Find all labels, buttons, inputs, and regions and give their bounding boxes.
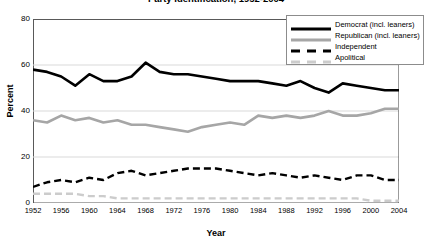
legend-item-democrat-incl-leaners[interactable]: Democrat (incl. leaners) <box>287 19 423 30</box>
x-tick-1984: 1984 <box>243 206 273 215</box>
x-tick-1968: 1968 <box>131 206 161 215</box>
party-identification-chart: Party Identification, 1952-2004 Percent … <box>0 0 432 242</box>
x-tick-1980: 1980 <box>215 206 245 215</box>
legend-item-label: Independent <box>335 42 377 51</box>
legend-swatch-icon <box>290 20 332 30</box>
x-tick-1952: 1952 <box>18 206 48 215</box>
legend-item-republican-incl-leaners[interactable]: Republican (incl. leaners) <box>287 30 423 41</box>
x-tick-1976: 1976 <box>187 206 217 215</box>
x-tick-2004: 2004 <box>384 206 414 215</box>
x-axis-title: Year <box>33 228 399 238</box>
x-tick-1992: 1992 <box>300 206 330 215</box>
legend-item-apolitical[interactable]: Apolitical <box>287 52 423 63</box>
legend-item-independent[interactable]: Independent <box>287 41 423 52</box>
y-tick-20: 20 <box>4 153 30 161</box>
x-axis-tick-labels: 1952195619601964196819721976198019841988… <box>33 206 399 218</box>
y-tick-80: 80 <box>4 15 30 23</box>
x-tick-1956: 1956 <box>46 206 76 215</box>
series-line-republican-incl-leaners <box>33 109 399 132</box>
x-tick-2000: 2000 <box>356 206 386 215</box>
series-line-apolitical <box>33 194 399 201</box>
legend-item-label: Apolitical <box>335 53 365 62</box>
legend-swatch-icon <box>290 53 332 63</box>
legend-swatch-icon <box>290 42 332 52</box>
y-tick-60: 60 <box>4 61 30 69</box>
x-tick-1988: 1988 <box>271 206 301 215</box>
chart-title: Party Identification, 1952-2004 <box>0 0 432 7</box>
chart-legend: Democrat (incl. leaners)Republican (incl… <box>286 15 424 65</box>
series-line-democrat-incl-leaners <box>33 63 399 93</box>
x-tick-1964: 1964 <box>102 206 132 215</box>
x-tick-1960: 1960 <box>74 206 104 215</box>
series-line-independent <box>33 169 399 187</box>
x-tick-1972: 1972 <box>159 206 189 215</box>
x-tick-1996: 1996 <box>328 206 358 215</box>
legend-item-label: Republican (incl. leaners) <box>335 31 420 40</box>
legend-swatch-icon <box>290 31 332 41</box>
legend-item-label: Democrat (incl. leaners) <box>335 20 415 29</box>
y-tick-40: 40 <box>4 107 30 115</box>
